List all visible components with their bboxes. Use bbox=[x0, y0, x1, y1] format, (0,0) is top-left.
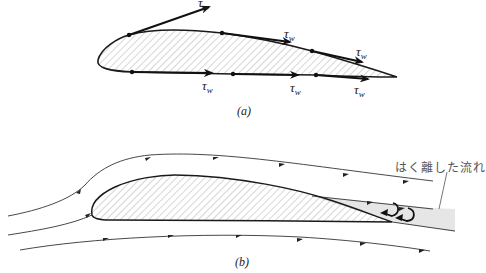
annotation-leader-line bbox=[439, 172, 447, 209]
shear-stress-label: τw bbox=[202, 79, 213, 95]
separated-flow-annotation: はく離した流れ bbox=[395, 158, 486, 175]
surface-point bbox=[231, 72, 235, 76]
shear-stress-label: τw bbox=[198, 0, 209, 12]
shear-arrow bbox=[132, 72, 212, 73]
surface-point bbox=[310, 49, 314, 53]
panel-a bbox=[98, 7, 397, 79]
panel-b bbox=[8, 154, 455, 253]
surface-point bbox=[130, 70, 134, 74]
streamline bbox=[8, 215, 92, 235]
surface-point bbox=[127, 33, 131, 37]
panel-b-caption: (b) bbox=[235, 256, 249, 268]
shear-arrow bbox=[233, 74, 298, 75]
shear-stress-label: τw bbox=[356, 45, 367, 61]
surface-point bbox=[314, 73, 318, 77]
shear-stress-label: τw bbox=[354, 83, 365, 99]
shear-stress-label: τw bbox=[290, 81, 301, 97]
surface-point bbox=[220, 31, 224, 35]
panel-a-caption: (a) bbox=[237, 105, 251, 117]
shear-stress-label: τw bbox=[284, 27, 295, 43]
airfoil-b bbox=[92, 175, 392, 222]
streamline bbox=[20, 235, 430, 251]
